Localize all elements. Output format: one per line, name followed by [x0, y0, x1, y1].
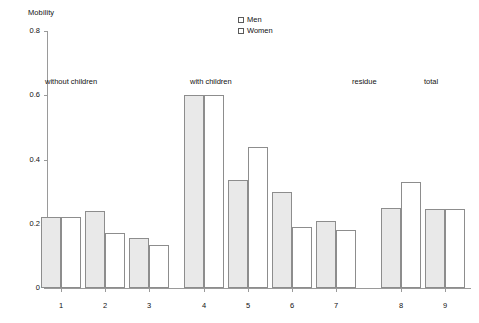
chart-legend: MenWomen [238, 14, 273, 36]
bar-men-2 [85, 211, 105, 288]
legend-swatch-icon [238, 28, 244, 34]
bar-men-6 [272, 192, 292, 288]
group-label-residue: residue [352, 77, 377, 86]
y-tick-mark [44, 288, 48, 289]
legend-swatch-icon [238, 17, 244, 23]
bar-women-4 [204, 95, 224, 288]
legend-item-men[interactable]: Men [238, 14, 273, 25]
x-tick-mark [336, 289, 337, 292]
bar-women-2 [105, 233, 125, 288]
x-tick-mark [292, 289, 293, 292]
x-tick-label: 5 [233, 301, 263, 310]
group-label-without-children: without children [45, 77, 97, 86]
x-tick-mark [248, 289, 249, 292]
bar-men-4 [184, 95, 204, 288]
y-tick-label: 0.2 [14, 219, 40, 228]
x-tick-label: 7 [321, 301, 351, 310]
x-tick-label: 3 [134, 301, 164, 310]
bar-men-5 [228, 180, 248, 288]
bar-chart: Mobility MenWomen 00.20.40.60.8 12345678… [0, 0, 479, 323]
x-axis-line [47, 288, 471, 289]
x-tick-mark [401, 289, 402, 292]
bar-women-8 [401, 182, 421, 288]
x-tick-mark [204, 289, 205, 292]
y-tick-label: 0.6 [14, 90, 40, 99]
x-tick-mark [445, 289, 446, 292]
bar-men-8 [381, 208, 401, 288]
y-tick-mark [44, 31, 48, 32]
x-tick-mark [149, 289, 150, 292]
bar-women-1 [61, 217, 81, 288]
x-tick-label: 2 [90, 301, 120, 310]
bar-men-1 [41, 217, 61, 288]
bar-women-7 [336, 230, 356, 288]
group-label-total: total [424, 77, 438, 86]
bar-women-9 [445, 209, 465, 288]
group-label-with-children: with children [190, 77, 232, 86]
bar-men-7 [316, 221, 336, 288]
y-tick-label: 0.8 [14, 26, 40, 35]
x-tick-mark [61, 289, 62, 292]
x-tick-label: 9 [430, 301, 460, 310]
bar-men-3 [129, 238, 149, 288]
y-tick-mark [44, 95, 48, 96]
x-tick-label: 6 [277, 301, 307, 310]
bar-women-5 [248, 147, 268, 288]
y-axis-title: Mobility [28, 8, 54, 17]
x-tick-label: 1 [46, 301, 76, 310]
bar-women-6 [292, 227, 312, 288]
y-tick-label: 0 [14, 283, 40, 292]
bar-women-3 [149, 245, 169, 288]
legend-label: Men [247, 15, 262, 24]
y-tick-mark [44, 160, 48, 161]
y-tick-label: 0.4 [14, 155, 40, 164]
x-tick-label: 4 [189, 301, 219, 310]
legend-label: Women [247, 26, 273, 35]
x-tick-label: 8 [386, 301, 416, 310]
bar-men-9 [425, 209, 445, 288]
legend-item-women[interactable]: Women [238, 25, 273, 36]
x-tick-mark [105, 289, 106, 292]
